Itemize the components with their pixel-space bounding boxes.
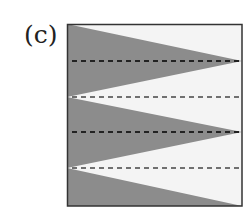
wedge-diagram xyxy=(0,0,252,213)
